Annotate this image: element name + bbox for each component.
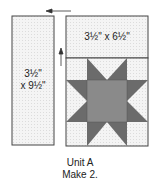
left-strip-dim-1: 3½" xyxy=(12,68,54,80)
left-strip-label: 3½" x 9½" xyxy=(12,68,54,92)
up-arrow-icon xyxy=(59,48,63,66)
top-rectangle-label: 3½" x 6½" xyxy=(66,31,148,43)
caption: Unit A Make 2. xyxy=(40,157,120,181)
left-arrow-icon xyxy=(46,9,71,13)
left-strip-dim-2: x 9½" xyxy=(12,80,54,92)
caption-title: Unit A xyxy=(40,157,120,169)
caption-count: Make 2. xyxy=(40,169,120,181)
center-square xyxy=(87,80,127,122)
